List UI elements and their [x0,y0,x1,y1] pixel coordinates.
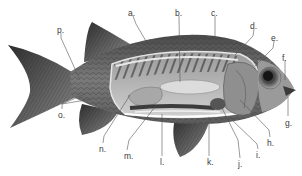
label-j-liver: j. [238,160,242,169]
label-l-intestine: l. [160,158,164,167]
label-h-gills: h. [267,139,274,148]
label-n-urinary-bladder: n. [99,145,106,154]
label-i-heart: i. [256,151,260,160]
label-b-swim-bladder: b. [175,9,182,18]
label-g-mouth: g. [285,119,292,128]
label-m-gonad: m. [124,152,133,161]
gills [223,62,259,115]
label-d-kidney: d. [250,22,257,31]
label-a-dorsal-muscle: a. [128,9,135,18]
label-o-anus: o. [58,111,65,120]
label-e-brain: e. [271,34,278,43]
label-k-stomach: k. [207,158,214,167]
caudal-fin [8,45,78,128]
label-c-spine: c. [211,9,218,18]
heart [210,98,226,110]
fish-anatomy-diagram: a. b. c. d. e. f. g. h. i. j. k. l. m. n… [0,0,302,176]
swim-bladder [160,80,220,94]
label-p-lateral-line: p. [57,26,64,35]
label-f-nostril: f. [282,54,287,63]
